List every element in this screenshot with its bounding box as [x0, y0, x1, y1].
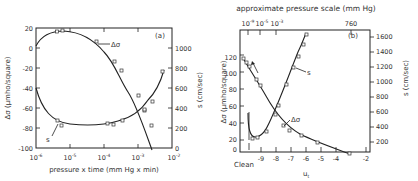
svg-text:60: 60 — [229, 103, 237, 111]
right-y-axis-label-a: s (cm/sec) — [196, 72, 204, 108]
tick-label: -20 — [22, 65, 33, 73]
svg-text:-6: -6 — [303, 155, 309, 163]
svg-text:-5: -5 — [318, 155, 324, 163]
svg-text:200: 200 — [376, 138, 388, 146]
annotation-delta-sigma-a: Δσ — [111, 41, 121, 49]
svg-text:1600: 1600 — [376, 33, 393, 41]
svg-text:-8: -8 — [273, 155, 279, 163]
svg-text:-4: -4 — [333, 155, 339, 163]
tick-label: 200 — [175, 125, 187, 133]
right-y-ticks-b: 1600 1400 1200 1000 800 600 400 200 — [376, 33, 393, 146]
tick-label: 1000 — [175, 45, 192, 53]
tick-label: -40 — [22, 85, 33, 93]
svg-text:-7: -7 — [288, 155, 294, 163]
tick-label: 400 — [175, 105, 187, 113]
tick-label: 20 — [25, 25, 33, 33]
panel-a: 20 0 -20 -40 -60 -80 -100 1000 800 600 4… — [4, 25, 204, 174]
svg-text:760: 760 — [345, 20, 357, 28]
plot-frame-a — [36, 28, 172, 148]
svg-text:20: 20 — [229, 136, 237, 144]
clean-label: Clean — [234, 161, 254, 169]
svg-text:10-9: 10-9 — [242, 19, 255, 28]
x-axis-label-a: pressure x time (mm Hg x min) — [49, 166, 159, 174]
top-axis-title-b: approximate pressure scale (mm Hg) — [236, 4, 376, 13]
panel-b: approximate pressure scale (mm Hg) 10-9 … — [220, 4, 410, 179]
annotation-s-b: s — [307, 69, 311, 77]
tick-label: -60 — [22, 105, 33, 113]
tick-label: 0 — [29, 45, 33, 53]
data-points-b — [242, 33, 351, 155]
tick-label: 600 — [175, 85, 187, 93]
svg-text:600: 600 — [376, 108, 388, 116]
x-ticks-b: -9 -8 -7 -6 -5 -4 -2 — [258, 155, 369, 163]
svg-text:10-2: 10-2 — [168, 153, 181, 162]
svg-text:-2: -2 — [363, 155, 369, 163]
svg-text:80: 80 — [229, 86, 237, 94]
panel-label-b: (b) — [348, 32, 358, 40]
top-x-ticks-b: 10-9 10-5 10-3 760 — [242, 19, 358, 28]
tick-label: -100 — [18, 145, 33, 153]
svg-text:10-4: 10-4 — [98, 153, 111, 162]
svg-text:400: 400 — [376, 123, 388, 131]
left-y-axis-label-a: Δσ (μmho/square) — [4, 56, 12, 119]
left-y-axis-label-b: Δσ (μmho/square) — [220, 60, 228, 123]
left-y-ticks-a: 20 0 -20 -40 -60 -80 -100 — [18, 25, 33, 153]
x-ticks-a: 10-6 10-5 10-4 10-3 10-2 — [30, 153, 181, 162]
svg-text:800: 800 — [376, 93, 388, 101]
curve-delta-sigma-b — [243, 58, 350, 154]
arrow-icon — [251, 61, 255, 65]
svg-text:10-3: 10-3 — [271, 19, 284, 28]
svg-text:1200: 1200 — [376, 63, 393, 71]
curve-delta-sigma-a — [36, 31, 152, 150]
svg-text:40: 40 — [229, 120, 237, 128]
tick-label: 800 — [175, 65, 187, 73]
svg-text:0: 0 — [233, 146, 237, 154]
panel-label-a: (a) — [155, 32, 165, 40]
plot-frame-b — [240, 30, 370, 152]
svg-text:10-3: 10-3 — [132, 153, 145, 162]
right-y-axis-label-b: s (cm/sec) — [402, 60, 410, 96]
svg-text:1400: 1400 — [376, 48, 393, 56]
annotation-s-a: s — [46, 136, 50, 144]
annotation-delta-sigma-b: Δσ — [291, 116, 301, 124]
figure: 20 0 -20 -40 -60 -80 -100 1000 800 600 4… — [0, 0, 418, 181]
right-y-ticks-a: 1000 800 600 400 200 0 — [175, 45, 192, 153]
svg-text:10-5: 10-5 — [64, 153, 77, 162]
svg-text:1000: 1000 — [376, 78, 393, 86]
x-axis-label-b: ut — [303, 170, 309, 179]
svg-text:-9: -9 — [258, 155, 264, 163]
svg-text:10-5: 10-5 — [256, 19, 269, 28]
tick-label: 0 — [175, 145, 179, 153]
tick-label: -80 — [22, 125, 33, 133]
curve-s-a — [36, 70, 164, 125]
svg-text:10-6: 10-6 — [30, 153, 43, 162]
